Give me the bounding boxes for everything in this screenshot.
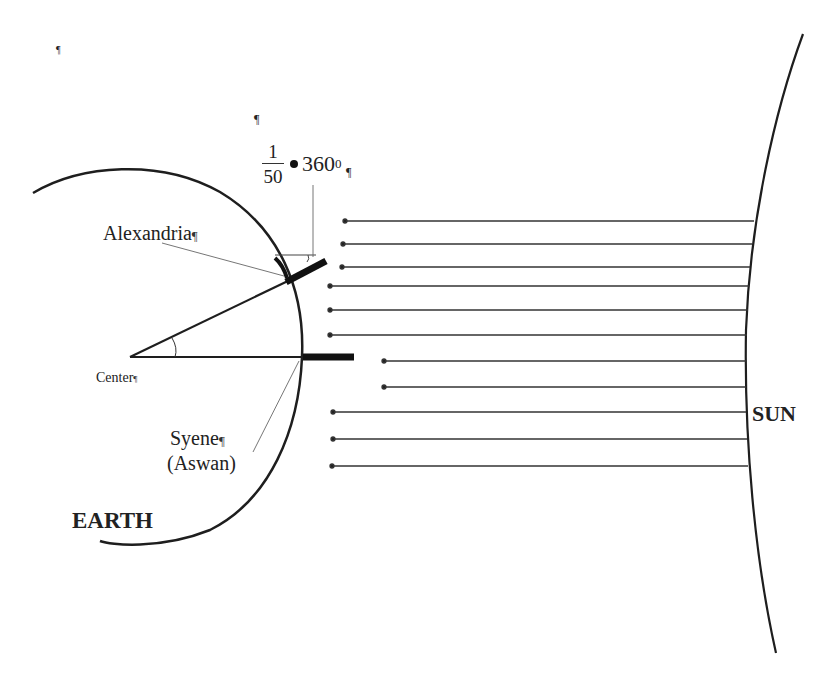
gnomon-angle-arc <box>307 255 309 262</box>
sun-curve <box>746 34 803 653</box>
label-aswan: (Aswan) <box>167 452 236 475</box>
leader-syene <box>253 361 299 452</box>
label-earth: EARTH <box>72 508 153 534</box>
label-sun-text: SUN <box>752 401 796 426</box>
multiply-dot <box>290 160 298 168</box>
sun-rays <box>328 219 754 468</box>
label-earth-text: EARTH <box>72 508 153 533</box>
radius-to-alexandria <box>130 280 290 357</box>
pilcrow-mark: ¶ <box>133 374 137 384</box>
pilcrow-mark: ¶ <box>219 433 225 448</box>
formula: 1 50 3600 <box>262 142 342 186</box>
fraction-numerator: 1 <box>268 142 278 163</box>
gnomon-alexandria <box>286 261 326 282</box>
label-center-text: Center <box>96 370 133 385</box>
label-center: Center¶ <box>96 370 137 386</box>
stray-mark-formula-right: ¶ <box>346 165 351 180</box>
stray-mark-text: ¶ <box>254 112 259 126</box>
center-angle-arc <box>172 338 176 357</box>
label-alexandria-text: Alexandria <box>103 222 192 244</box>
fraction-denominator: 50 <box>264 164 283 186</box>
stray-mark-formula-top: ¶ <box>254 112 259 127</box>
label-sun: SUN <box>752 401 796 427</box>
label-syene: Syene¶ <box>170 427 225 450</box>
label-syene-text: Syene <box>170 427 219 449</box>
stray-mark-text: ¶ <box>346 165 351 179</box>
pilcrow-mark: ¶ <box>192 228 198 243</box>
stray-mark-top-left: ¶ <box>56 44 61 55</box>
eratosthenes-diagram <box>0 0 837 686</box>
label-alexandria: Alexandria¶ <box>103 222 198 245</box>
stray-mark-text: ¶ <box>56 44 61 55</box>
label-aswan-text: (Aswan) <box>167 452 236 474</box>
degrees-superscript: 0 <box>335 156 342 172</box>
fraction: 1 50 <box>262 142 284 186</box>
leader-alexandria <box>162 243 284 276</box>
degrees-value: 360 <box>302 151 335 177</box>
